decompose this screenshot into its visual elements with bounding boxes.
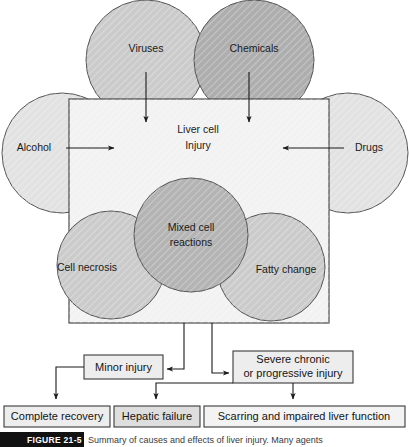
flow-box-severe-chronic-injury: Severe chronic or progressive injury [233,351,353,383]
label-liver-cell-injury-line2: Injury [185,139,211,151]
label-hepatic-failure: Hepatic failure [122,410,192,422]
label-viruses: Viruses [129,42,164,54]
figure-number: FIGURE 21-5 [27,435,82,445]
outcome-box-hepatic-failure: Hepatic failure [114,406,200,427]
flow-box-minor-injury: Minor injury [84,355,163,379]
liver-injury-diagram: Viruses Chemicals Alcohol Drugs Liver ce… [0,0,409,447]
label-severe-injury-line2: or progressive injury [243,367,343,379]
figure-page: Viruses Chemicals Alcohol Drugs Liver ce… [0,0,409,447]
outcome-box-scarring: Scarring and impaired liver function [204,406,405,427]
label-mixed-cell-reactions-line2: reactions [170,236,213,248]
label-fatty-change: Fatty change [256,263,317,275]
label-liver-cell-injury-line1: Liver cell [177,123,218,135]
label-chemicals: Chemicals [229,42,278,54]
figure-caption-text: Summary of causes and effects of liver i… [88,435,323,445]
figure-caption: FIGURE 21-5 Summary of causes and effect… [0,432,409,447]
label-drugs: Drugs [355,141,383,153]
label-scarring: Scarring and impaired liver function [218,410,390,422]
outcome-box-complete-recovery: Complete recovery [4,406,110,427]
label-minor-injury: Minor injury [95,361,152,373]
label-mixed-cell-reactions-line1: Mixed cell [168,221,215,233]
label-severe-injury-line1: Severe chronic [256,353,330,365]
label-alcohol: Alcohol [17,141,51,153]
label-cell-necrosis: Cell necrosis [57,261,117,273]
label-complete-recovery: Complete recovery [11,410,104,422]
